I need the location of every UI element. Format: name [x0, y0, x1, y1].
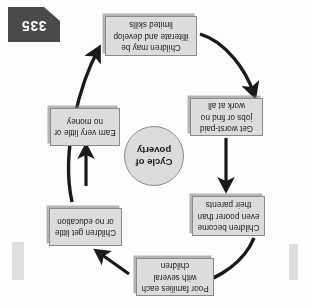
margin-bar-left — [289, 244, 298, 280]
node-worst-paid-jobs: Get worst-paid jobs or find no work at a… — [190, 98, 263, 136]
diagram-center-label: Cycle of poverty — [124, 126, 184, 186]
arrow-skills-to-jobs — [200, 34, 254, 94]
cycle-of-poverty-diagram: Poor families each with several children… — [0, 0, 312, 308]
node-children-poorer: Children become even poorer than their p… — [192, 196, 265, 236]
node-illiterate-limited-skills: Children may be illiterate and develop l… — [105, 16, 197, 56]
page-canvas: Poor families each with several children… — [0, 0, 312, 308]
node-earn-little-money: Earn very little or no money — [50, 108, 120, 146]
node-poor-families: Poor families each with several children — [136, 258, 214, 296]
margin-bar-right — [12, 242, 24, 280]
arrow-families-to-education — [98, 252, 129, 274]
center-label-line-2: poverty — [137, 145, 171, 156]
node-children-education: Children get little or no education — [49, 208, 122, 246]
rotated-page-content: Poor families each with several children… — [0, 0, 312, 308]
center-label-line-1: Cycle of — [136, 157, 173, 168]
